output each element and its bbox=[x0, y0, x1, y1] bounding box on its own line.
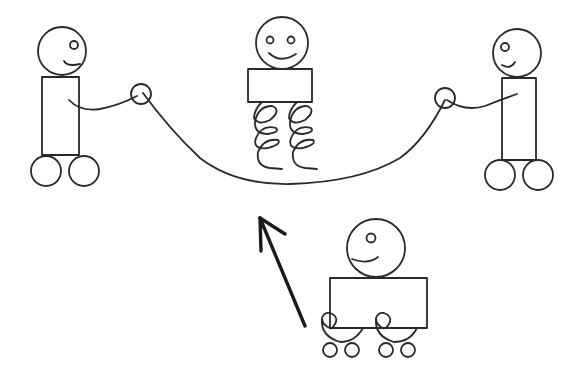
middle-robot-eye-right-icon bbox=[288, 37, 295, 44]
right-robot-arm bbox=[447, 94, 517, 108]
bottom-robot bbox=[322, 219, 427, 357]
bottom-robot-body bbox=[330, 278, 427, 328]
left-robot bbox=[31, 27, 151, 186]
left-robot-wheel-left bbox=[31, 156, 61, 186]
diagram-canvas: Robots jumping rope bbox=[0, 0, 573, 370]
right-robot-wheel-right bbox=[523, 160, 553, 190]
middle-robot-spring-left bbox=[254, 102, 282, 169]
left-robot-wheel-right bbox=[69, 156, 99, 186]
left-robot-smile bbox=[64, 61, 80, 65]
left-robot-body bbox=[42, 77, 79, 155]
middle-robot-smile bbox=[269, 53, 296, 59]
middle-robot-body bbox=[248, 69, 312, 102]
left-robot-eye-icon bbox=[70, 41, 78, 49]
right-robot-smile bbox=[502, 62, 515, 67]
middle-robot-head bbox=[256, 17, 308, 69]
left-robot-head bbox=[38, 27, 86, 75]
bottom-robot-eye-icon bbox=[367, 234, 376, 243]
bottom-robot-wheel-3 bbox=[379, 343, 393, 357]
right-robot-eye-icon bbox=[501, 43, 509, 51]
right-robot-head bbox=[493, 29, 541, 77]
bottom-robot-wheel-4 bbox=[401, 343, 415, 357]
middle-robot-spring-right bbox=[289, 102, 317, 169]
middle-robot-eye-left-icon bbox=[267, 37, 274, 44]
right-robot-body bbox=[502, 78, 536, 160]
bottom-robot-head bbox=[347, 219, 405, 277]
direction-arrow-icon bbox=[260, 218, 305, 326]
right-robot-hand bbox=[435, 88, 455, 108]
bottom-robot-wheel-2 bbox=[345, 343, 359, 357]
bottom-robot-smile bbox=[352, 257, 378, 262]
middle-robot bbox=[248, 17, 317, 169]
right-robot bbox=[435, 29, 553, 190]
right-robot-wheel-left bbox=[485, 160, 515, 190]
bottom-robot-wheel-1 bbox=[323, 343, 337, 357]
